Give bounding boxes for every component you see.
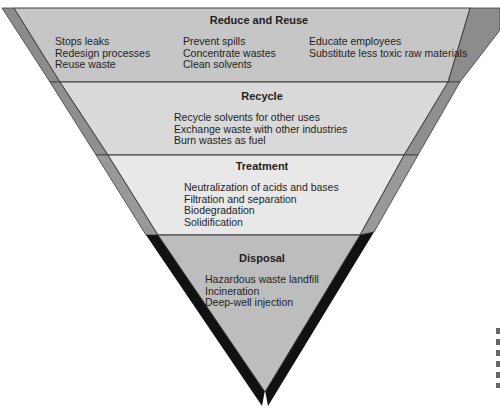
list-item: Educate employees — [309, 36, 467, 48]
reduce-column-3: Educate employees Substitute less toxic … — [309, 36, 467, 59]
treatment-list: Neutralization of acids and bases Filtra… — [184, 182, 339, 228]
list-item: Hazardous waste landfill — [205, 274, 319, 286]
reduce-column-2: Prevent spills Concentrate wastes Clean … — [183, 36, 276, 71]
recycle-list: Recycle solvents for other uses Exchange… — [174, 112, 347, 147]
list-item: Burn wastes as fuel — [174, 135, 347, 147]
tier-title-treatment: Treatment — [236, 160, 289, 172]
disposal-list: Hazardous waste landfill Incineration De… — [205, 274, 319, 309]
list-item: Substitute less toxic raw materials — [309, 48, 467, 60]
list-item: Prevent spills — [183, 36, 276, 48]
list-item: Recycle solvents for other uses — [174, 112, 347, 124]
list-item: Neutralization of acids and bases — [184, 182, 339, 194]
list-item: Deep-well injection — [205, 297, 319, 309]
cropped-text-fragment — [496, 328, 500, 388]
list-item: Clean solvents — [183, 59, 276, 71]
tier-title-reduce-reuse: Reduce and Reuse — [210, 14, 308, 26]
list-item: Stops leaks — [55, 36, 150, 48]
list-item: Solidification — [184, 217, 339, 229]
tier-title-disposal: Disposal — [239, 252, 285, 264]
tier-title-recycle: Recycle — [241, 90, 283, 102]
list-item: Reuse waste — [55, 59, 150, 71]
reduce-column-1: Stops leaks Redesign processes Reuse was… — [55, 36, 150, 71]
